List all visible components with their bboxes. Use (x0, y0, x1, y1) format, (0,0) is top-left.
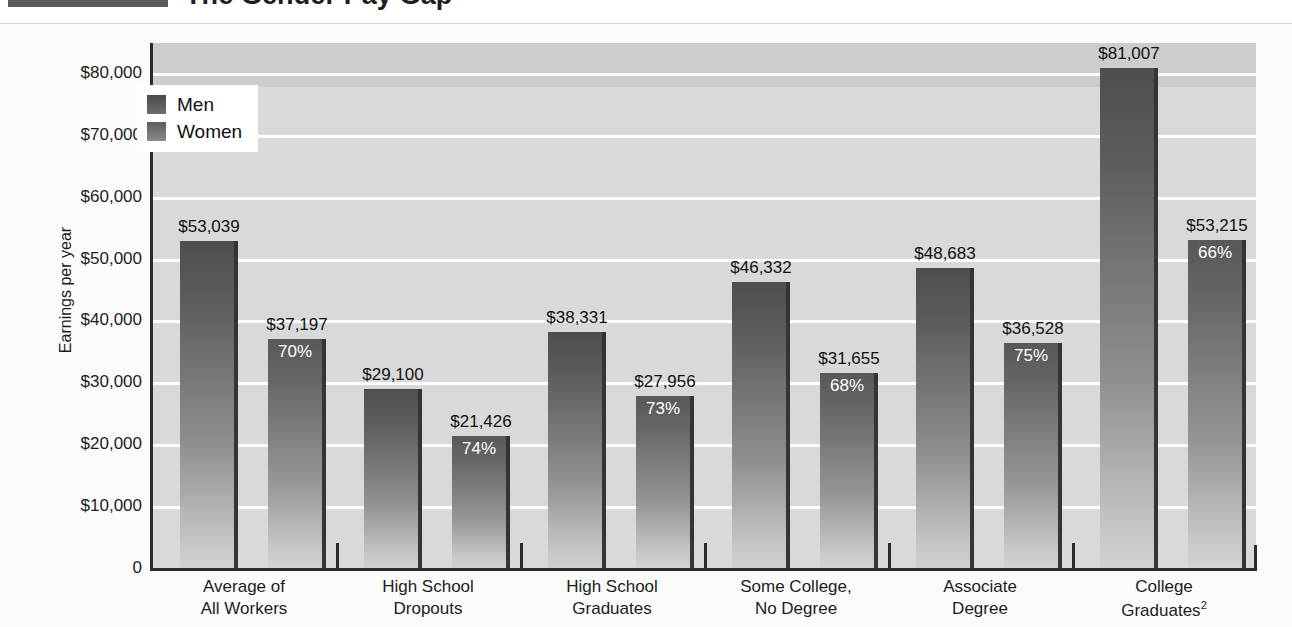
group-separator-tick (336, 543, 339, 569)
category-label: AssociateDegree (888, 576, 1072, 621)
y-tick-label: 0 (46, 558, 142, 578)
bar-men (1100, 68, 1158, 569)
bar-value-label-women: $21,426 (450, 412, 511, 432)
chart-legend: Men Women (137, 85, 258, 152)
y-tick-label: $70,000 (46, 125, 142, 145)
category-label-line2: No Degree (704, 598, 888, 620)
bar-percent-label-women: 75% (1014, 346, 1048, 366)
group-separator-tick (888, 543, 891, 569)
legend-label-women: Women (177, 121, 242, 143)
bar-value-label-women: $36,528 (1002, 319, 1063, 339)
category-label-line2: Degree (888, 598, 1072, 620)
bar-men (732, 282, 790, 569)
category-label-line2: Dropouts (336, 598, 520, 620)
gridline (152, 73, 1256, 76)
category-label-line2: Graduates2 (1072, 598, 1256, 622)
bar-women (268, 339, 326, 569)
bar-value-label-men: $29,100 (362, 365, 423, 385)
bar-percent-label-women: 70% (278, 342, 312, 362)
plot-area: $53,039$37,19770%$29,100$21,42674%$38,33… (152, 43, 1256, 569)
y-tick-label: $60,000 (46, 187, 142, 207)
gridline (152, 259, 1256, 262)
y-tick-label: $80,000 (46, 63, 142, 83)
category-label-line2: All Workers (152, 598, 336, 620)
bar-men (364, 389, 422, 569)
gridline (152, 197, 1256, 200)
bar-value-label-men: $38,331 (546, 308, 607, 328)
bar-women (1004, 343, 1062, 569)
bar-women (1188, 240, 1246, 569)
y-tick-label: $50,000 (46, 249, 142, 269)
legend-item-women: Women (147, 118, 242, 145)
women-swatch-icon (147, 122, 166, 141)
bar-value-label-women: $27,956 (634, 372, 695, 392)
category-label-line1: High School (520, 576, 704, 598)
group-separator-tick (520, 543, 523, 569)
bar-men (548, 332, 606, 569)
y-tick-label: $20,000 (46, 434, 142, 454)
bar-percent-label-women: 66% (1198, 243, 1232, 263)
category-label: High SchoolDropouts (336, 576, 520, 621)
y-tick-label: $30,000 (46, 372, 142, 392)
men-swatch-icon (147, 95, 166, 114)
title-rule-decoration (8, 0, 168, 7)
x-axis-end-tick (1254, 545, 1257, 571)
category-label: Average ofAll Workers (152, 576, 336, 621)
y-axis-tick-labels: Earnings per year 0$10,000$20,000$30,000… (38, 43, 142, 571)
bar-men (180, 241, 238, 569)
bar-percent-label-women: 68% (830, 376, 864, 396)
bar-men (916, 268, 974, 569)
footnote-marker: 2 (1201, 599, 1207, 611)
bar-value-label-women: $53,215 (1186, 216, 1247, 236)
category-label: High SchoolGraduates (520, 576, 704, 621)
bar-value-label-men: $48,683 (914, 244, 975, 264)
bar-value-label-men: $53,039 (178, 217, 239, 237)
bar-percent-label-women: 74% (462, 439, 496, 459)
title-strip: The Gender Pay Gap (0, 0, 1292, 22)
group-separator-tick (1072, 543, 1075, 569)
category-label-line1: College (1072, 576, 1256, 598)
group-separator-tick (704, 543, 707, 569)
category-label-line1: Some College, (704, 576, 888, 598)
bar-value-label-men: $46,332 (730, 258, 791, 278)
bar-value-label-men: $81,007 (1098, 44, 1159, 64)
category-label-line1: High School (336, 576, 520, 598)
bar-value-label-women: $37,197 (266, 315, 327, 335)
x-axis-line (150, 568, 1257, 571)
category-label-line2: Graduates (520, 598, 704, 620)
bar-women (820, 373, 878, 569)
bar-women (636, 396, 694, 569)
category-label: CollegeGraduates2 (1072, 576, 1256, 623)
y-tick-label: $40,000 (46, 310, 142, 330)
bar-value-label-women: $31,655 (818, 349, 879, 369)
plot-top-band (152, 43, 1256, 87)
bar-percent-label-women: 73% (646, 399, 680, 419)
category-label-line1: Associate (888, 576, 1072, 598)
legend-item-men: Men (147, 91, 242, 118)
y-tick-label: $10,000 (46, 496, 142, 516)
category-label: Some College,No Degree (704, 576, 888, 621)
legend-label-men: Men (177, 94, 214, 116)
category-label-line1: Average of (152, 576, 336, 598)
y-axis-title: Earnings per year (57, 190, 75, 390)
chart-figure: $53,039$37,19770%$29,100$21,42674%$38,33… (0, 23, 1292, 627)
gridline (152, 135, 1256, 138)
page-title: The Gender Pay Gap (185, 0, 452, 11)
